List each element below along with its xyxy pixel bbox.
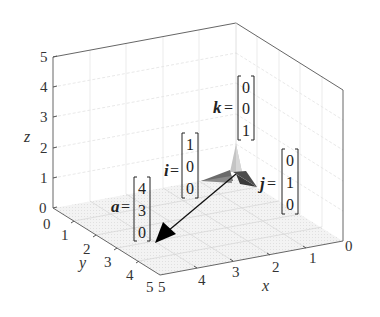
vector-plot-3d: 0 1 2 3 4 5 z 0 1 2 3 4 5 y 5 4 3 2 1 0 …	[0, 0, 380, 317]
vector-i-name: i	[164, 161, 169, 180]
y-tick-5: 5	[146, 279, 154, 295]
x-axis-label: x	[261, 277, 269, 294]
vector-j-c2: 0	[286, 196, 294, 213]
x-tick-1: 1	[309, 250, 317, 266]
x-tick-4: 4	[198, 272, 206, 288]
z-axis-label: z	[23, 128, 31, 145]
z-tick-0: 0	[39, 200, 47, 216]
y-tick-4: 4	[126, 267, 134, 283]
vector-k-c2: 1	[242, 122, 250, 139]
vector-k-equals: =	[224, 99, 233, 116]
x-tick-5: 5	[158, 279, 166, 295]
vector-j-c0: 0	[286, 152, 294, 169]
x-tick-0: 0	[345, 238, 353, 254]
vector-a-c0: 4	[138, 180, 146, 197]
vector-a-c2: 0	[138, 224, 146, 241]
vector-a-name: a	[111, 197, 120, 216]
x-tick-2: 2	[272, 259, 280, 275]
vector-i-c0: 1	[186, 136, 194, 153]
vector-i-equals: =	[170, 162, 179, 179]
vector-k-c0: 0	[242, 79, 250, 96]
y-tick-0: 0	[43, 216, 51, 232]
vector-j-c1: 1	[286, 174, 294, 191]
y-axis-label: y	[77, 254, 87, 272]
z-tick-1: 1	[40, 170, 48, 186]
vector-a-equals: =	[121, 198, 130, 215]
z-tick-4: 4	[40, 79, 48, 95]
vector-i-c2: 0	[186, 180, 194, 197]
y-tick-3: 3	[104, 254, 112, 270]
y-tick-1: 1	[61, 227, 69, 243]
x-tick-3: 3	[232, 264, 240, 280]
z-tick-3: 3	[40, 109, 48, 125]
vector-a-c1: 3	[138, 202, 146, 219]
vector-k-c1: 0	[242, 100, 250, 117]
z-tick-2: 2	[40, 140, 48, 156]
vector-i-c1: 0	[186, 158, 194, 175]
vector-k-name: k	[213, 98, 222, 117]
z-tick-5: 5	[40, 49, 48, 65]
vector-j-equals: =	[267, 175, 276, 192]
